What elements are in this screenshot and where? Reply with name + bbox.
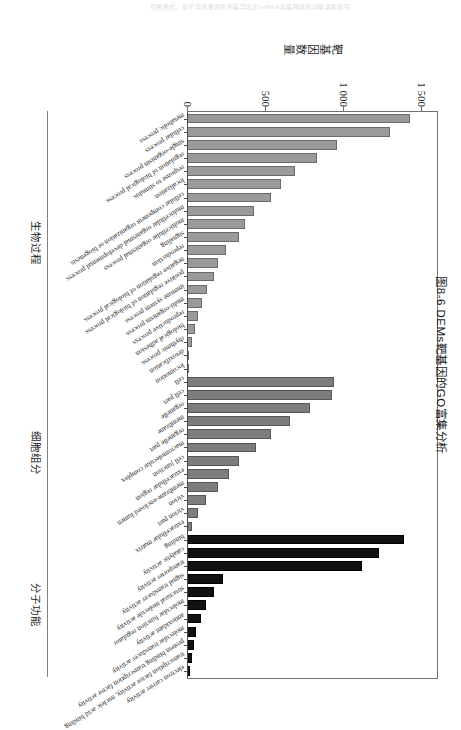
bar: [187, 245, 226, 255]
bar-cell: [187, 494, 437, 507]
category-label: organelle part: [37, 427, 187, 440]
category-label: signal transducer activity: [37, 571, 187, 584]
bar: [187, 232, 239, 242]
plot-area: [187, 111, 438, 679]
bar-cell: [187, 388, 437, 401]
value-tick-label: 0: [182, 102, 194, 108]
bar-cell: [187, 165, 437, 178]
bar: [187, 206, 254, 216]
bar: [187, 258, 218, 268]
bar-cell: [187, 428, 437, 441]
category-label: virion part: [37, 506, 187, 519]
bar-cell: [187, 467, 437, 480]
bar: [187, 311, 198, 321]
bar-cell: [187, 612, 437, 625]
bar-cell: [187, 480, 437, 493]
group-rule: [47, 111, 48, 374]
category-label: immune system process: [37, 282, 187, 295]
bar: [187, 456, 239, 466]
rotated-figure-wrapper: 05001 0001 500 靶基因数量 metabolic processce…: [0, 0, 461, 730]
bar-cell: [187, 230, 437, 243]
category-label: binding: [37, 532, 187, 545]
bar-cell: [187, 125, 437, 138]
category-label: cellular component organization or bioge…: [37, 190, 187, 203]
category-label: virion: [37, 493, 187, 506]
bar-cell: [187, 520, 437, 533]
bar: [187, 114, 410, 124]
bar-cell: [187, 296, 437, 309]
bar-cell: [187, 375, 437, 388]
figure-caption-text: 图8-6 DEMs靶基因的GO富集分析: [434, 276, 450, 454]
bar-cell: [187, 244, 437, 257]
category-label: molecular function regulator: [37, 598, 187, 611]
bar-cell: [187, 441, 437, 454]
bar: [187, 574, 223, 584]
bar: [187, 614, 201, 624]
category-label: membrane-enclosed lumen: [37, 479, 187, 492]
bar-cell: [187, 191, 437, 204]
bar: [187, 193, 271, 203]
category-label: molecular transducer activity: [37, 624, 187, 637]
bar: [187, 298, 202, 308]
bar-cell: [187, 270, 437, 283]
bar: [187, 600, 206, 610]
category-label-text: transcription factor activity, nucleic a…: [63, 650, 186, 730]
value-tick-label: 1 500: [416, 82, 428, 107]
category-label: multicellular organismal developmental p…: [37, 203, 187, 216]
category-label: transporter activity: [37, 558, 187, 571]
value-tick-label: 500: [260, 91, 272, 108]
category-label: detoxification: [37, 348, 187, 361]
category-label: single-organism process: [37, 137, 187, 150]
bar: [187, 508, 198, 518]
bar-cell: [187, 454, 437, 467]
bar: [187, 429, 271, 439]
bar-series: [187, 112, 437, 678]
category-label: organelle: [37, 400, 187, 413]
group-bracket: 细胞组分: [18, 374, 48, 532]
bar-cell: [187, 151, 437, 164]
bar-cell: [187, 665, 437, 678]
bar-cell: [187, 586, 437, 599]
bar: [187, 377, 334, 387]
bar-cell: [187, 559, 437, 572]
bar: [187, 469, 229, 479]
category-labels: metabolic processcellular processsingle-…: [37, 111, 187, 677]
category-label: cell junction: [37, 453, 187, 466]
bar: [187, 179, 281, 189]
category-label: multi-organism process: [37, 295, 187, 308]
bar-cell: [187, 138, 437, 151]
category-label: cell part: [37, 387, 187, 400]
bar-cell: [187, 415, 437, 428]
category-label: metabolic process: [37, 111, 187, 124]
bar: [187, 390, 332, 400]
bar-cell: [187, 178, 437, 191]
category-label: transcription factor activity, nucleic a…: [37, 650, 187, 663]
bar-cell: [187, 349, 437, 362]
bar-cell: [187, 112, 437, 125]
category-label: macromolecular complex: [37, 440, 187, 453]
bar-cell: [187, 309, 437, 322]
category-label: catalytic activity: [37, 545, 187, 558]
category-label: structural molecule activity: [37, 585, 187, 598]
bar: [187, 403, 310, 413]
category-label: response to stimulus: [37, 164, 187, 177]
group-bracket: 生物过程: [18, 111, 48, 374]
bar: [187, 272, 214, 282]
plot-inner: [187, 112, 437, 678]
bar-cell: [187, 323, 437, 336]
group-name: 生物过程: [29, 111, 44, 374]
bar-cell: [187, 572, 437, 585]
group-bracket: 分子功能: [18, 532, 48, 677]
category-label: extracellular matrix: [37, 519, 187, 532]
group-bracket-row: 生物过程细胞组分分子功能: [18, 111, 48, 677]
bar-cell: [187, 204, 437, 217]
bar: [187, 127, 390, 137]
bar: [187, 495, 206, 505]
category-label-text: cell: [172, 374, 185, 386]
bar: [187, 166, 295, 176]
bar-cell: [187, 651, 437, 664]
group-rule: [47, 532, 48, 677]
category-label: electron carrier activity: [37, 664, 187, 677]
bar-cell: [187, 217, 437, 230]
group-rule: [47, 374, 48, 532]
